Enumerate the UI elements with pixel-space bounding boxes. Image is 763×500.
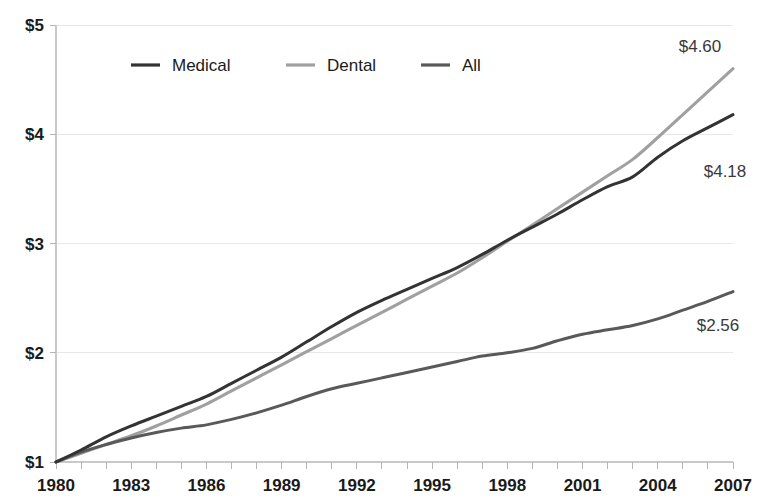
x-axis-labels-group: 1980198319861989199219951998200120042007 — [37, 476, 752, 495]
data-label-dental: $4.60 — [679, 37, 722, 56]
legend-label: Medical — [172, 56, 231, 75]
x-axis-tick-label: 1986 — [188, 476, 226, 495]
gridlines-group — [56, 25, 733, 462]
y-axis-labels-group: $1$2$3$4$5 — [25, 16, 44, 472]
chart-legend: MedicalDentalAll — [131, 56, 481, 75]
x-axis-tick-label: 2001 — [564, 476, 602, 495]
x-axis-tick-label: 1989 — [263, 476, 301, 495]
y-axis-tick-label: $3 — [25, 235, 44, 254]
series-line-all — [56, 292, 733, 462]
y-axis-tick-label: $1 — [25, 453, 44, 472]
series-line-dental — [56, 69, 733, 462]
chart-plot-area: $1$2$3$4$5 19801983198619891992199519982… — [0, 0, 763, 500]
x-axis-tick-label: 2004 — [639, 476, 677, 495]
y-axis-tick-label: $2 — [25, 344, 44, 363]
legend-item-medical: Medical — [131, 56, 231, 75]
y-axis-tick-label: $5 — [25, 16, 44, 35]
x-axis-tick-label: 1980 — [37, 476, 75, 495]
x-tickmarks-group — [56, 462, 733, 469]
line-chart: $1$2$3$4$5 19801983198619891992199519982… — [0, 0, 763, 500]
legend-label: All — [462, 56, 481, 75]
data-label-all: $2.56 — [697, 316, 740, 335]
y-axis-tick-label: $4 — [25, 125, 44, 144]
legend-item-dental: Dental — [286, 56, 376, 75]
x-axis-tick-label: 1983 — [112, 476, 150, 495]
series-line-medical — [56, 115, 733, 462]
data-label-medical: $4.18 — [704, 162, 747, 181]
x-axis-tick-label: 1992 — [338, 476, 376, 495]
x-axis-tick-label: 1995 — [413, 476, 451, 495]
legend-item-all: All — [421, 56, 481, 75]
data-series-group — [56, 69, 733, 462]
data-label-annotations-group: $4.18$4.60$2.56 — [679, 37, 747, 335]
x-axis-tick-label: 2007 — [714, 476, 752, 495]
x-axis-tick-label: 1998 — [488, 476, 526, 495]
y-tickmarks-group — [50, 25, 56, 462]
legend-label: Dental — [327, 56, 376, 75]
